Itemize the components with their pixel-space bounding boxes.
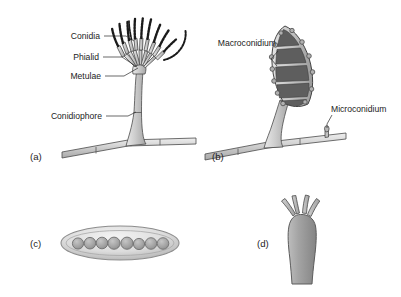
- ascospore-5: [121, 237, 133, 249]
- label-conidiophore: Conidiophore: [51, 111, 102, 121]
- macroconidium-bump-11: [310, 70, 315, 75]
- phialid-5: [140, 38, 144, 50]
- ascospore-4: [108, 237, 120, 249]
- ascospore-6: [133, 238, 144, 249]
- macroconidium-bump-2: [270, 67, 275, 72]
- panel-letter-a: (a): [30, 151, 42, 162]
- fungal-structures-diagram: Conidia Phialid Metulae Conidiophore (a): [0, 0, 401, 297]
- macroconidium-bump-3: [272, 79, 277, 84]
- macroconidium-bump-10: [307, 54, 312, 59]
- macroconidium-bump-4: [275, 91, 280, 96]
- macroconidium-cell-3: [276, 66, 309, 82]
- label-conidia: Conidia: [71, 31, 100, 41]
- phialid-4: [134, 38, 138, 50]
- label-microconidium: Microconidium: [331, 104, 386, 114]
- diagram-background: [0, 0, 401, 297]
- label-metulae: Metulae: [70, 71, 101, 81]
- label-macroconidium: Macroconidium: [218, 38, 276, 48]
- macroconidium-bump-5: [281, 101, 286, 106]
- macroconidium-bump-9: [300, 40, 305, 45]
- panel-letter-b: (b): [212, 151, 224, 162]
- macroconidium-bump-7: [279, 31, 283, 35]
- panel-letter-d: (d): [257, 238, 269, 249]
- panel-letter-c: (c): [30, 238, 41, 249]
- ascospore-8: [157, 238, 169, 250]
- macroconidium-cell-4: [277, 83, 309, 98]
- macroconidium-bump-8: [290, 28, 294, 32]
- ascospore-3: [96, 237, 108, 249]
- ascospore-1: [72, 238, 83, 249]
- label-phialid: Phialid: [73, 52, 99, 62]
- basidium-body: [288, 214, 316, 284]
- macroconidium-bump-13: [303, 100, 307, 104]
- ascospore-2: [84, 237, 96, 249]
- macroconidium-bump-12: [309, 87, 314, 92]
- figure-canvas: Conidia Phialid Metulae Conidiophore (a): [0, 0, 401, 297]
- ascospore-7: [145, 238, 157, 250]
- macroconidium-cell-2: [276, 48, 306, 64]
